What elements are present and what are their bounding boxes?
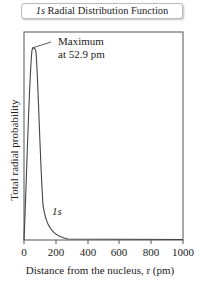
x-tick-label: 1000 [172,246,194,258]
x-tick-label: 800 [143,246,160,258]
annotation-line-1: Maximum [58,35,105,48]
annotation-line-2: at 52.9 pm [58,48,105,61]
plot-frame [24,32,183,240]
x-tick-label: 0 [21,246,27,258]
radial-distribution-curve [24,48,183,240]
x-tick-label: 400 [80,246,97,258]
x-ticks [24,240,183,244]
x-axis-label: Distance from the nucleus, r (pm) [0,264,200,276]
annotation-leader-line [32,42,51,48]
maximum-annotation: Maximum at 52.9 pm [58,35,105,61]
x-tick-label: 200 [48,246,65,258]
x-tick-label: 600 [111,246,128,258]
y-axis-label: Total radial probability [8,80,20,220]
curve-label: 1s [52,205,62,218]
